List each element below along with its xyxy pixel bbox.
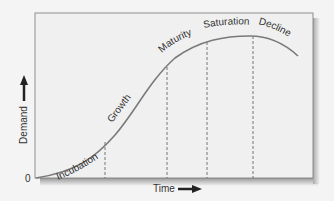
yaxis-arrow-icon: [20, 75, 28, 101]
frame-shadow-bottom: [40, 178, 318, 186]
origin-label: 0: [25, 173, 31, 184]
yaxis-label: Demand: [18, 106, 29, 144]
xaxis-label: Time: [153, 183, 175, 194]
xaxis-arrow-icon: [178, 185, 202, 193]
product-lifecycle-diagram: Incubation Growth Maturity Saturation De…: [0, 0, 334, 201]
frame-shadow-right: [313, 18, 320, 184]
